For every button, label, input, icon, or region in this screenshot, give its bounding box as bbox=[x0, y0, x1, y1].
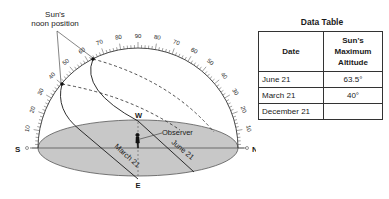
arc-degree-label: 60 bbox=[190, 46, 199, 55]
callout-line-march bbox=[57, 31, 61, 83]
arc-degree-label: 30 bbox=[36, 87, 45, 96]
arc-degree-label: 70 bbox=[95, 38, 104, 46]
data-table: Date Sun's Maximum Altitude June 21 63.5… bbox=[258, 31, 383, 120]
callout-line-june bbox=[57, 31, 93, 58]
arc-degree-label: 80 bbox=[154, 34, 162, 41]
header-altitude: Sun's Maximum Altitude bbox=[324, 32, 383, 72]
north-label: N bbox=[252, 145, 256, 154]
arc-degree-label: 40 bbox=[47, 71, 56, 80]
arc-degree-label: 20 bbox=[240, 105, 248, 114]
cell-altitude bbox=[324, 104, 383, 120]
arc-degree-label: 20 bbox=[28, 105, 36, 114]
cell-altitude: 63.5° bbox=[324, 72, 383, 88]
data-table-panel: Data Table Date Sun's Maximum Altitude J… bbox=[258, 17, 386, 120]
callout-label-2: noon position bbox=[31, 19, 79, 28]
table-row: March 21 40° bbox=[259, 88, 383, 104]
header-altitude-line1: Sun's bbox=[342, 36, 363, 45]
callout-label-1: Sun's bbox=[45, 10, 65, 19]
cell-date: December 21 bbox=[259, 104, 324, 120]
cell-date: June 21 bbox=[259, 72, 324, 88]
arc-degree-label: 40 bbox=[220, 71, 229, 80]
arc-degree-label: 10 bbox=[24, 124, 31, 132]
cell-date: March 21 bbox=[259, 88, 324, 104]
header-altitude-line3: Altitude bbox=[338, 58, 368, 67]
cell-altitude: 40° bbox=[324, 88, 383, 104]
arc-degree-label: 10 bbox=[245, 125, 252, 133]
arc-degree-label: 30 bbox=[231, 87, 240, 96]
header-altitude-line2: Maximum bbox=[335, 47, 372, 56]
east-label: E bbox=[136, 181, 141, 190]
south-label: S bbox=[15, 145, 21, 154]
arc-degree-label: 80 bbox=[115, 34, 123, 41]
arc-degree-label: 70 bbox=[172, 38, 181, 46]
observer-label: Observer bbox=[162, 128, 193, 137]
arc-degree-label: 50 bbox=[206, 57, 215, 66]
table-header-row: Date Sun's Maximum Altitude bbox=[259, 32, 383, 72]
sun-path-diagram: 1020304050607080908070605040302010 Sun's… bbox=[0, 0, 256, 199]
table-row: June 21 63.5° bbox=[259, 72, 383, 88]
header-date: Date bbox=[259, 32, 324, 72]
table-row: December 21 bbox=[259, 104, 383, 120]
south-marker bbox=[26, 147, 29, 150]
data-table-title: Data Table bbox=[258, 17, 386, 27]
arc-degree-label: 50 bbox=[61, 57, 70, 66]
arc-degree-label: 90 bbox=[135, 33, 142, 39]
north-marker bbox=[246, 147, 249, 150]
west-label: W bbox=[135, 111, 143, 120]
